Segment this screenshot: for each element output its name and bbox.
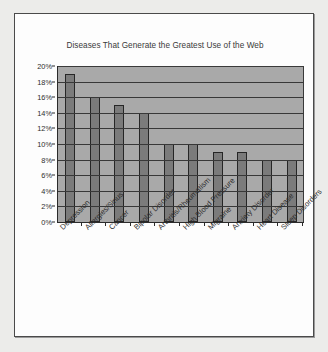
y-axis-tick-label: 8% xyxy=(41,155,52,164)
y-axis-tick-label: 4% xyxy=(41,186,52,195)
y-axis-tick-mark xyxy=(52,81,55,82)
gridline xyxy=(58,128,304,129)
y-axis-tick-label: 6% xyxy=(41,171,52,180)
y-axis-tick-label: 14% xyxy=(37,108,52,117)
gridline xyxy=(58,144,304,145)
y-axis-tick-mark xyxy=(52,128,55,129)
gridline xyxy=(58,97,304,98)
y-axis-tick-mark xyxy=(52,97,55,98)
y-axis-tick-mark xyxy=(52,159,55,160)
chart-page: Diseases That Generate the Greatest Use … xyxy=(0,0,328,352)
y-axis-tick-mark xyxy=(52,222,55,223)
chart-card: Diseases That Generate the Greatest Use … xyxy=(14,13,314,337)
y-axis-tick-mark xyxy=(52,66,55,67)
y-axis-tick-mark xyxy=(52,190,55,191)
gridline xyxy=(58,160,304,161)
y-axis-tick-label: 10% xyxy=(37,140,52,149)
y-axis-tick-label: 20% xyxy=(37,62,52,71)
gridline xyxy=(58,175,304,176)
chart-title: Diseases That Generate the Greatest Use … xyxy=(15,41,315,50)
y-axis-tick-label: 12% xyxy=(37,124,52,133)
y-axis-tick-label: 18% xyxy=(37,77,52,86)
gridline xyxy=(58,113,304,114)
y-axis-tick-mark xyxy=(52,206,55,207)
y-axis-tick-label: 0% xyxy=(41,218,52,227)
y-axis-tick-mark xyxy=(52,144,55,145)
y-axis-labels: 0%2%4%6%8%10%12%14%16%18%20% xyxy=(27,66,55,222)
y-axis-tick-mark xyxy=(52,175,55,176)
y-axis-tick-label: 16% xyxy=(37,93,52,102)
gridline xyxy=(58,82,304,83)
y-axis-tick-mark xyxy=(52,112,55,113)
y-axis-tick-label: 2% xyxy=(41,202,52,211)
plot-area-wrapper: 0%2%4%6%8%10%12%14%16%18%20% DepressionA… xyxy=(57,66,303,234)
x-axis-labels: DepressionAllergies/SinusCancerBipolar D… xyxy=(57,226,303,306)
